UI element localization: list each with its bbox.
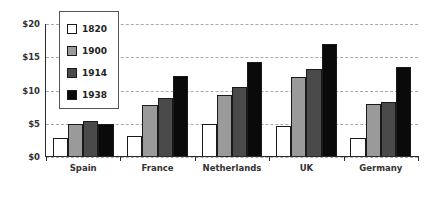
- x-tick-mark: [418, 156, 419, 161]
- y-tick-label: $5: [2, 120, 40, 129]
- legend: 1820 1900 1914 1938: [59, 11, 119, 109]
- x-tick-mark: [269, 156, 270, 161]
- legend-swatch-1820-icon: [67, 24, 77, 34]
- x-tick-mark: [120, 156, 121, 161]
- x-tick-label: Germany: [336, 164, 426, 173]
- legend-label-1820: 1820: [82, 25, 107, 34]
- y-tick-label: $0: [2, 153, 40, 162]
- x-tick-mark: [195, 156, 196, 161]
- legend-label-1914: 1914: [82, 69, 107, 78]
- legend-item[interactable]: 1914: [67, 62, 118, 84]
- legend-label-1938: 1938: [82, 91, 107, 100]
- legend-item[interactable]: 1938: [67, 84, 118, 106]
- legend-item[interactable]: 1820: [67, 18, 118, 40]
- legend-swatch-1900-icon: [67, 46, 77, 56]
- legend-label-1900: 1900: [82, 47, 107, 56]
- y-tick-label: $15: [2, 53, 40, 62]
- y-tick-label: $20: [2, 20, 40, 29]
- x-tick-mark: [46, 156, 47, 161]
- legend-item[interactable]: 1900: [67, 40, 118, 62]
- legend-swatch-1938-icon: [67, 90, 77, 100]
- x-tick-mark: [344, 156, 345, 161]
- bar-chart: $0$5$10$15$20 SpainFranceNetherlandsUKGe…: [0, 0, 432, 197]
- y-tick-label: $10: [2, 87, 40, 96]
- legend-swatch-1914-icon: [67, 68, 77, 78]
